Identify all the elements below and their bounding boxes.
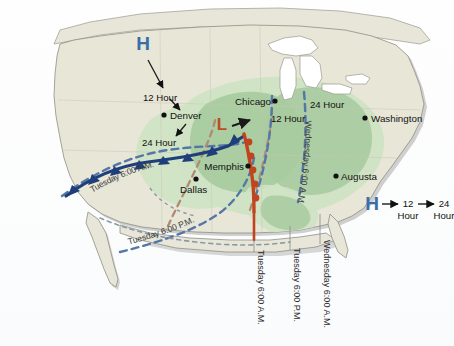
legend-12-unit: Hour bbox=[398, 210, 420, 221]
city-dot-washington bbox=[362, 115, 367, 120]
city-label-memphis: Memphis bbox=[204, 161, 244, 172]
legend-24-value: 24 bbox=[439, 198, 450, 209]
city-dot-dallas bbox=[193, 176, 198, 181]
legend-12-value: 12 bbox=[403, 198, 414, 209]
city-label-augusta: Augusta bbox=[341, 171, 378, 182]
city-label-chicago: Chicago bbox=[235, 96, 271, 107]
high-pressure-symbol: H bbox=[136, 33, 150, 54]
city-dot-memphis bbox=[245, 163, 250, 168]
legend-24-unit: Hour bbox=[434, 210, 454, 221]
vertical-label-tuesday-pm: Tuesday 6:00 P.M. bbox=[292, 248, 302, 322]
label-east-24-hour: 24 Hour bbox=[310, 99, 345, 110]
city-label-washington: Washington bbox=[371, 113, 422, 124]
label-east-12-hour: 12 Hour bbox=[271, 113, 306, 124]
city-label-denver: Denver bbox=[170, 110, 202, 121]
city-dot-augusta bbox=[333, 173, 338, 178]
vertical-label-tuesday-am: Tuesday 6:00 A.M. bbox=[256, 250, 266, 325]
low-pressure-symbol: L bbox=[217, 115, 227, 134]
city-dot-denver bbox=[161, 112, 166, 117]
weather-map-figure: H L 12 Hour 24 Hour 12 Hour 24 Hour Denv… bbox=[0, 0, 454, 346]
city-dot-chicago bbox=[272, 98, 277, 103]
label-west-24-hour: 24 Hour bbox=[142, 137, 177, 148]
city-label-dallas: Dallas bbox=[180, 184, 207, 195]
label-west-12-hour: 12 Hour bbox=[143, 92, 178, 103]
legend-high-symbol: H bbox=[365, 193, 379, 214]
vertical-label-wednesday-am: Wednesday 6:00 A.M. bbox=[322, 240, 332, 328]
